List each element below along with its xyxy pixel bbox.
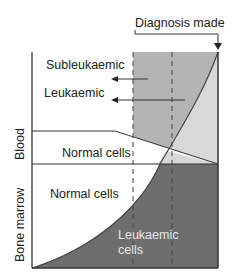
blood-normal-label: Normal cells xyxy=(62,146,131,160)
arrow-left-icon xyxy=(111,76,118,82)
bone-marrow-axis-label: Bone marrow xyxy=(13,187,27,262)
blood-axis-label: Blood xyxy=(13,128,27,160)
leukaemic-cells-label-2: cells xyxy=(118,243,143,257)
leukaemic-label: Leukaemic xyxy=(44,86,104,100)
diagnosis-arrow-icon xyxy=(214,43,222,50)
leukaemia-progression-diagram: Diagnosis made Subleukaemic Leukaemic No… xyxy=(0,0,234,278)
subleukaemic-label: Subleukaemic xyxy=(46,58,125,72)
diagnosis-label: Diagnosis made xyxy=(135,16,225,30)
marrow-normal-label: Normal cells xyxy=(50,187,119,201)
leukaemic-cells-label-1: Leukaemic xyxy=(118,228,178,242)
diagnosis-bracket xyxy=(135,30,218,44)
arrow-left-icon xyxy=(111,97,118,103)
